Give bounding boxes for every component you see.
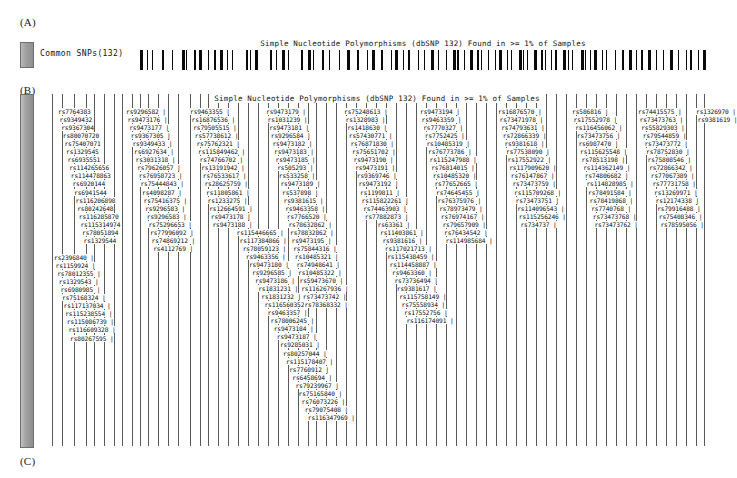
snp-id-label[interactable]: rs115314974 bbox=[80, 221, 120, 228]
snp-tick[interactable] bbox=[308, 50, 311, 70]
snp-id-label[interactable]: rs1159924 | bbox=[56, 262, 96, 269]
snp-id-label[interactable]: rs115086739 | bbox=[67, 318, 114, 325]
snp-tick[interactable] bbox=[276, 50, 277, 70]
snp-tick[interactable] bbox=[703, 50, 706, 70]
snp-tick[interactable] bbox=[446, 50, 447, 70]
snp-tick[interactable] bbox=[541, 50, 543, 70]
snp-tick[interactable] bbox=[381, 50, 383, 70]
snp-id-label[interactable]: rs76814015 | bbox=[431, 164, 475, 171]
snp-id-label[interactable]: rs9463358 | bbox=[285, 205, 325, 212]
snp-tick[interactable] bbox=[572, 50, 573, 70]
snp-id-label[interactable]: rs114985684 | bbox=[446, 237, 493, 244]
snp-id-label[interactable]: rs9296583 | bbox=[147, 213, 187, 220]
snp-id-label[interactable]: rs9473181 | bbox=[269, 124, 309, 131]
snp-id-label[interactable]: rs116174091 | bbox=[406, 317, 453, 324]
snp-tick[interactable] bbox=[301, 50, 303, 70]
snp-id-label[interactable]: rs116347969 | bbox=[308, 414, 355, 421]
snp-tick[interactable] bbox=[357, 50, 359, 70]
snp-id-label[interactable]: rs9381619 | bbox=[698, 116, 737, 123]
snp-id-label[interactable]: rs505293 | bbox=[277, 164, 313, 171]
snp-id-label[interactable]: rs115849462 | bbox=[198, 148, 245, 155]
snp-id-label[interactable]: rs7740768 | bbox=[591, 205, 631, 212]
snp-id-label[interactable]: rs7766520 | bbox=[287, 213, 327, 220]
snp-id-label[interactable]: rs73473768 | bbox=[593, 213, 637, 220]
snp-id-label[interactable]: rs9473191 | bbox=[355, 164, 395, 171]
snp-id-label[interactable]: rs78752830 | bbox=[646, 148, 690, 155]
snp-id-label[interactable]: rs114478863 bbox=[71, 172, 111, 179]
snp-id-label[interactable]: rs115822261 | bbox=[362, 197, 409, 204]
snp-id-label[interactable]: rs79075408 | bbox=[305, 406, 349, 413]
snp-id-label[interactable]: rs4098287 | bbox=[142, 189, 182, 196]
snp-id-label[interactable]: rs9381615 | bbox=[284, 197, 324, 204]
snp-tick[interactable] bbox=[372, 50, 375, 70]
snp-id-label[interactable]: rs80242648 bbox=[77, 205, 113, 212]
snp-id-label[interactable]: rs4112769 | bbox=[153, 245, 193, 252]
snp-id-label[interactable]: rs76147867 | bbox=[511, 172, 555, 179]
snp-id-label[interactable]: rs75762321 | bbox=[196, 140, 240, 147]
snp-id-label[interactable]: rs6980985 | bbox=[60, 286, 100, 293]
snp-id-label[interactable]: rs57430771 | bbox=[349, 132, 393, 139]
snp-id-label[interactable]: rs77882873 | bbox=[365, 213, 409, 220]
snp-tick[interactable] bbox=[477, 50, 479, 70]
snp-id-label[interactable]: rs16876570 | bbox=[498, 108, 542, 115]
snp-tick[interactable] bbox=[648, 50, 651, 70]
snp-id-label[interactable]: rs79916488 | bbox=[657, 205, 701, 212]
snp-id-label[interactable]: rs114362149 | bbox=[583, 164, 630, 171]
snp-tick[interactable] bbox=[563, 50, 566, 70]
snp-id-label[interactable]: rs63361 | bbox=[378, 221, 411, 228]
snp-id-label[interactable]: rs79505515 | bbox=[193, 124, 237, 131]
snp-tick[interactable] bbox=[656, 50, 657, 70]
snp-id-label[interactable]: rs78491584 | bbox=[588, 189, 632, 196]
snp-tick[interactable] bbox=[270, 50, 272, 70]
snp-id-label[interactable]: rs6987470 | bbox=[578, 140, 618, 147]
snp-id-label[interactable]: rs1329543 | bbox=[59, 278, 99, 285]
snp-id-label[interactable]: rs76073226 | bbox=[302, 398, 346, 405]
snp-tick[interactable] bbox=[568, 50, 569, 70]
snp-id-label[interactable]: rs73473763 | bbox=[640, 116, 684, 123]
snp-id-label[interactable]: rs78973479 | bbox=[439, 205, 483, 212]
snp-tick[interactable] bbox=[172, 50, 173, 70]
snp-id-label[interactable]: rs10485320 | bbox=[433, 172, 477, 179]
snp-id-label[interactable]: rs80257044 | bbox=[283, 350, 327, 357]
snp-id-label[interactable]: rs117021713 | bbox=[385, 245, 432, 252]
snp-tick[interactable] bbox=[555, 50, 557, 70]
snp-id-label[interactable]: rs79544859 | bbox=[643, 132, 687, 139]
snp-tick[interactable] bbox=[140, 50, 143, 70]
snp-id-label[interactable]: rs114828985 | bbox=[586, 180, 633, 187]
snp-id-label[interactable]: rs9473180 | bbox=[249, 261, 289, 268]
snp-tick[interactable] bbox=[347, 50, 350, 70]
snp-id-label[interactable]: rs28625759 | bbox=[204, 180, 248, 187]
snp-tick[interactable] bbox=[418, 50, 419, 70]
snp-id-label[interactable]: rs16876536 | bbox=[192, 116, 236, 123]
snp-tick[interactable] bbox=[246, 50, 248, 70]
snp-tick[interactable] bbox=[641, 50, 643, 70]
snp-tick[interactable] bbox=[499, 50, 502, 70]
snp-tick[interactable] bbox=[629, 50, 632, 70]
snp-id-label[interactable]: rs9473182 | bbox=[272, 140, 312, 147]
snp-id-label[interactable]: rs77538090 | bbox=[506, 148, 550, 155]
snp-tick[interactable] bbox=[152, 50, 153, 70]
snp-tick[interactable] bbox=[232, 50, 233, 70]
snp-id-label[interactable]: rs17552978 | bbox=[574, 116, 618, 123]
snp-id-label[interactable]: rs75651702 | bbox=[352, 148, 396, 155]
snp-tick[interactable] bbox=[403, 50, 404, 70]
snp-tick[interactable] bbox=[395, 50, 398, 70]
snp-id-label[interactable]: rs9473178 | bbox=[211, 213, 251, 220]
snp-id-label[interactable]: rs73473756 | bbox=[577, 132, 621, 139]
snp-id-label[interactable]: rs76773786 | bbox=[428, 148, 472, 155]
snp-tick[interactable] bbox=[220, 50, 223, 70]
snp-id-label[interactable]: rs12664591 | bbox=[209, 205, 253, 212]
snp-tick[interactable] bbox=[594, 50, 597, 70]
snp-tick[interactable] bbox=[663, 50, 664, 70]
snp-tick[interactable] bbox=[581, 50, 584, 70]
snp-id-label[interactable]: rs116206898 bbox=[76, 197, 116, 204]
snp-id-label[interactable]: rs116456062 | bbox=[575, 124, 622, 131]
snp-id-label[interactable]: rs73471978 | bbox=[500, 116, 544, 123]
snp-id-label[interactable]: rs7764383 bbox=[58, 108, 91, 115]
snp-id-label[interactable]: rs57738612 | bbox=[195, 132, 239, 139]
snp-id-label[interactable]: rs9369746 | bbox=[357, 172, 397, 179]
snp-id-label[interactable]: rs75408346 | bbox=[659, 213, 703, 220]
snp-id-label[interactable]: rs9296584 | bbox=[271, 132, 311, 139]
snp-id-label[interactable]: rs9473189 | bbox=[280, 180, 320, 187]
snp-id-label[interactable]: rs9473195 | bbox=[292, 237, 332, 244]
